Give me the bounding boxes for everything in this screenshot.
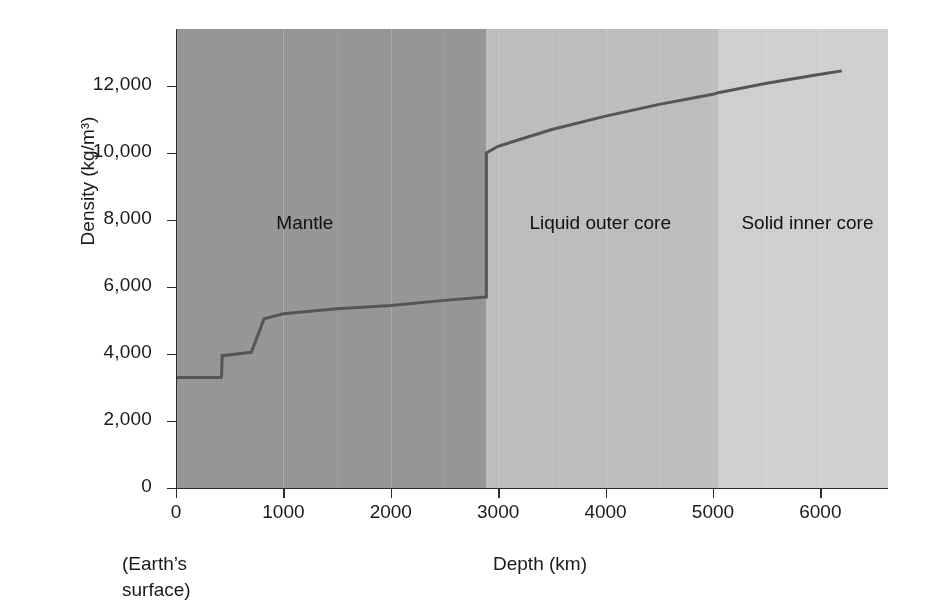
y-tick-8000 xyxy=(167,220,176,221)
figure-root: MantleLiquid outer coreSolid inner core … xyxy=(0,0,929,614)
region-label-solid-inner-core: Solid inner core xyxy=(741,212,873,234)
earth-surface-note-line1: (Earth’s xyxy=(122,551,242,577)
y-tick-2000 xyxy=(167,421,176,422)
x-tick-5000 xyxy=(713,489,714,498)
y-tick-label-4000: 4,000 xyxy=(2,341,152,363)
x-tick-label-0: 0 xyxy=(116,501,236,523)
earth-surface-note: (Earth’s surface) xyxy=(122,551,242,603)
density-curve xyxy=(176,29,888,488)
x-tick-3000 xyxy=(498,489,499,498)
earth-surface-note-line2: surface) xyxy=(122,577,242,603)
x-tick-label-6000: 6000 xyxy=(760,501,880,523)
x-axis-title: Depth (km) xyxy=(430,553,650,575)
x-tick-label-4000: 4000 xyxy=(546,501,666,523)
y-tick-0 xyxy=(167,488,176,489)
y-tick-6000 xyxy=(167,287,176,288)
y-axis-title: Density (kg/m³) xyxy=(77,61,99,301)
x-tick-label-1000: 1000 xyxy=(223,501,343,523)
x-tick-1000 xyxy=(283,489,284,498)
x-tick-6000 xyxy=(820,489,821,498)
y-tick-4000 xyxy=(167,354,176,355)
y-axis-line xyxy=(176,29,177,489)
x-tick-label-3000: 3000 xyxy=(438,501,558,523)
x-tick-label-2000: 2000 xyxy=(331,501,451,523)
region-label-liquid-outer-core: Liquid outer core xyxy=(529,212,671,234)
x-tick-2000 xyxy=(391,489,392,498)
region-label-mantle: Mantle xyxy=(276,212,333,234)
y-tick-label-2000: 2,000 xyxy=(2,408,152,430)
x-tick-4000 xyxy=(606,489,607,498)
plot-area: MantleLiquid outer coreSolid inner core xyxy=(176,29,888,488)
y-tick-label-0: 0 xyxy=(2,475,152,497)
y-tick-10000 xyxy=(167,153,176,154)
y-tick-12000 xyxy=(167,86,176,87)
x-tick-0 xyxy=(176,489,177,498)
x-tick-label-5000: 5000 xyxy=(653,501,773,523)
